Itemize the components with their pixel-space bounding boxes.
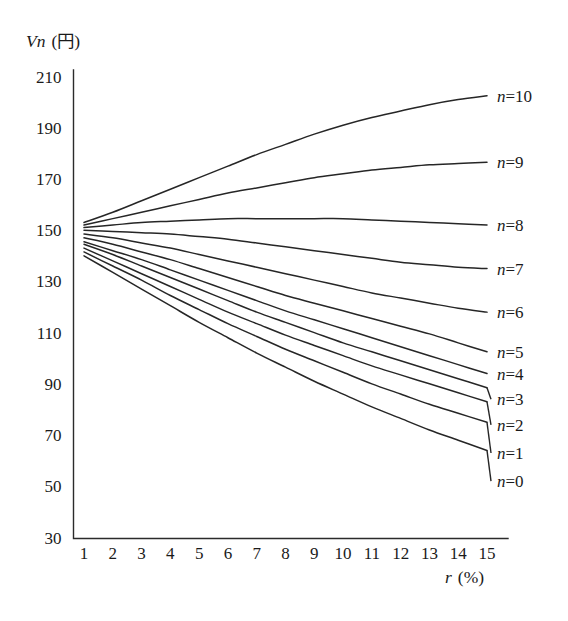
y-axis-tick-labels: 30507090110130150170190210 [36,68,62,548]
leader-line [487,450,491,481]
leader-line [487,422,491,453]
y-axis-tick-label: 170 [36,170,62,189]
x-axis-tick-label: 12 [392,544,409,563]
series-label-group: n=10n=9n=8n=7n=6n=5n=4n=3n=2n=1n=0 [497,87,532,491]
data-curve-n6 [84,234,487,312]
y-axis-tick-label: 90 [45,375,62,394]
series-label-n9: n=9 [497,153,524,172]
data-curve-n2 [84,248,487,402]
series-label-n0: n=0 [497,472,524,491]
x-axis-tick-label: 13 [421,544,438,563]
series-label-n1: n=1 [497,444,524,463]
chart-container: Vn(円) 30507090110130150170190210 1234567… [0,0,568,621]
y-axis-tick-label: 30 [45,529,62,548]
leader-line [487,402,491,425]
x-axis-tick-label: 6 [224,544,233,563]
data-curve-n4 [84,242,487,374]
data-curve-n3 [84,244,487,387]
y-axis-tick-label: 70 [45,426,62,445]
series-label-n10: n=10 [497,87,532,106]
x-axis-tick-label: 10 [335,544,352,563]
x-axis-tick-label: 9 [310,544,319,563]
data-curve-n10 [84,96,487,223]
y-axis-tick-label: 50 [45,477,62,496]
y-axis-tick-label: 210 [36,68,62,87]
x-axis-tick-label: 15 [479,544,496,563]
series-label-n2: n=2 [497,416,524,435]
y-axis-tick-label: 190 [36,119,62,138]
y-axis-tick-label: 150 [36,221,62,240]
series-label-n6: n=6 [497,303,524,322]
series-label-n3: n=3 [497,390,524,409]
series-label-n7: n=7 [497,260,524,279]
curve-group [84,96,487,451]
axis-frame [74,70,509,539]
x-axis-title: r(%) [445,567,484,587]
x-axis-tick-label: 14 [450,544,468,563]
x-axis-tick-label: 1 [80,544,89,563]
x-axis-tick-label: 8 [281,544,290,563]
x-axis-tick-labels: 123456789101112131415 [80,544,496,563]
data-curve-n1 [84,252,487,422]
leader-line-group [487,388,491,482]
leader-line [487,388,491,400]
x-axis-tick-label: 4 [166,544,175,563]
data-curve-n8 [84,219,487,228]
y-axis-title: Vn(円) [26,31,80,51]
x-axis-tick-label: 2 [109,544,118,563]
x-axis-tick-label: 11 [364,544,380,563]
series-label-n5: n=5 [497,343,524,362]
y-axis-tick-label: 130 [36,272,62,291]
y-axis-tick-label: 110 [37,324,62,343]
x-axis-tick-label: 7 [252,544,261,563]
data-curve-n7 [84,230,487,268]
series-label-n8: n=8 [497,216,524,235]
series-label-n4: n=4 [497,365,524,384]
x-axis-tick-label: 3 [137,544,146,563]
data-curve-n9 [84,162,487,225]
data-curve-n0 [84,256,487,451]
chart-plot-area: Vn(円) 30507090110130150170190210 1234567… [0,0,568,621]
x-axis-tick-label: 5 [195,544,204,563]
